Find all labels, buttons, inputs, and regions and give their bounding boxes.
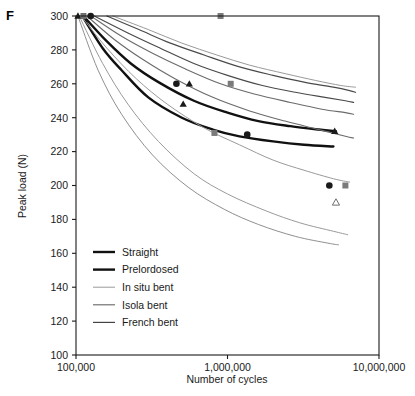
marker-layer (74, 12, 348, 205)
x-axis-title: Number of cycles (186, 373, 267, 385)
panel-label: F (6, 8, 14, 23)
y-tick-label: 200 (50, 179, 68, 191)
series-line (81, 16, 350, 182)
y-axis-ticks: 100120140160180200220240260280300 (50, 10, 76, 361)
data-marker-square (211, 130, 217, 136)
x-tick-label: 100,000 (57, 361, 95, 373)
y-tick-label: 140 (50, 281, 68, 293)
series-line (91, 16, 354, 114)
legend-label: Isola bent (122, 299, 168, 311)
y-tick-label: 280 (50, 44, 68, 56)
chart-legend: StraightPrelordosedIn situ bentIsola ben… (93, 246, 179, 328)
data-marker-triangle (186, 80, 193, 86)
x-tick-label: 1,000,000 (204, 361, 251, 373)
x-tick-label: 10,000,000 (353, 361, 406, 373)
data-marker-square (228, 81, 234, 87)
data-marker-triangle (332, 199, 339, 205)
y-tick-label: 300 (50, 10, 68, 22)
series-line (79, 16, 347, 235)
data-marker-circle (326, 182, 333, 189)
data-marker-square (342, 183, 348, 189)
data-marker-circle (173, 81, 180, 88)
y-tick-label: 120 (50, 315, 68, 327)
legend-label: Straight (122, 246, 158, 258)
legend-label: In situ bent (122, 281, 173, 293)
y-tick-label: 220 (50, 145, 68, 157)
series-line (94, 16, 353, 102)
legend-label: Prelordosed (122, 263, 179, 275)
peak-load-vs-cycles-chart: 100120140160180200220240260280300 100,00… (0, 0, 415, 396)
data-marker-circle (244, 131, 251, 138)
y-tick-label: 180 (50, 213, 68, 225)
y-tick-label: 240 (50, 112, 68, 124)
data-marker-triangle (180, 100, 187, 106)
y-axis-title: Peak load (N) (16, 154, 28, 218)
legend-label: French bent (122, 316, 178, 328)
x-axis-ticks: 100,0001,000,00010,000,000 (57, 355, 405, 373)
y-tick-label: 160 (50, 247, 68, 259)
y-tick-label: 100 (50, 349, 68, 361)
y-tick-label: 260 (50, 78, 68, 90)
figure-panel-f: F 100120140160180200220240260280300 100,… (0, 0, 415, 396)
